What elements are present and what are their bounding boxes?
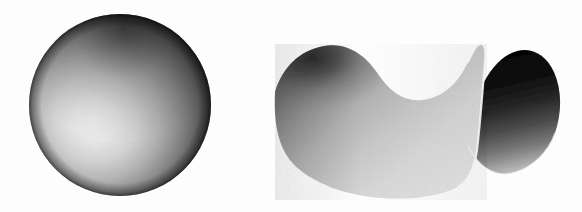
saddle-body bbox=[275, 44, 560, 200]
saddle-valley-shade bbox=[275, 44, 487, 200]
sphere-body bbox=[29, 14, 211, 196]
saddle-figure bbox=[262, 0, 582, 212]
sphere-rim-shadow bbox=[29, 14, 211, 196]
sphere-svg bbox=[0, 0, 272, 212]
saddle-svg bbox=[262, 0, 582, 212]
saddle-front-sheet bbox=[275, 44, 487, 200]
figure-page bbox=[0, 0, 582, 212]
sphere-figure bbox=[0, 0, 272, 212]
